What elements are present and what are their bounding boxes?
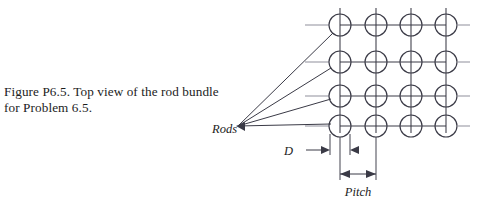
- figure-page: Figure P6.5. Top view of the rod bundle …: [0, 0, 489, 204]
- rods-label: Rods: [211, 122, 237, 136]
- d-arrowhead-left: [321, 146, 330, 154]
- column-connector-lines: [340, 8, 446, 133]
- row-connector-lines: [340, 25, 446, 126]
- pitch-dimension: Pitch: [340, 170, 376, 199]
- diameter-dimension: D: [283, 144, 359, 158]
- d-arrowhead-right: [350, 146, 359, 154]
- pitch-arrowhead-right: [366, 170, 376, 178]
- row-right-stubs: [458, 25, 470, 126]
- pitch-label: Pitch: [344, 185, 371, 199]
- pitch-arrowhead-left: [340, 170, 350, 178]
- rods-leader-lines: [236, 33, 333, 131]
- leader-to-rod-r2-c1: [238, 68, 331, 126]
- rod-bundle-diagram: Rods D Pitch: [0, 0, 489, 204]
- diameter-label: D: [283, 144, 293, 158]
- rod-circles: [329, 14, 457, 137]
